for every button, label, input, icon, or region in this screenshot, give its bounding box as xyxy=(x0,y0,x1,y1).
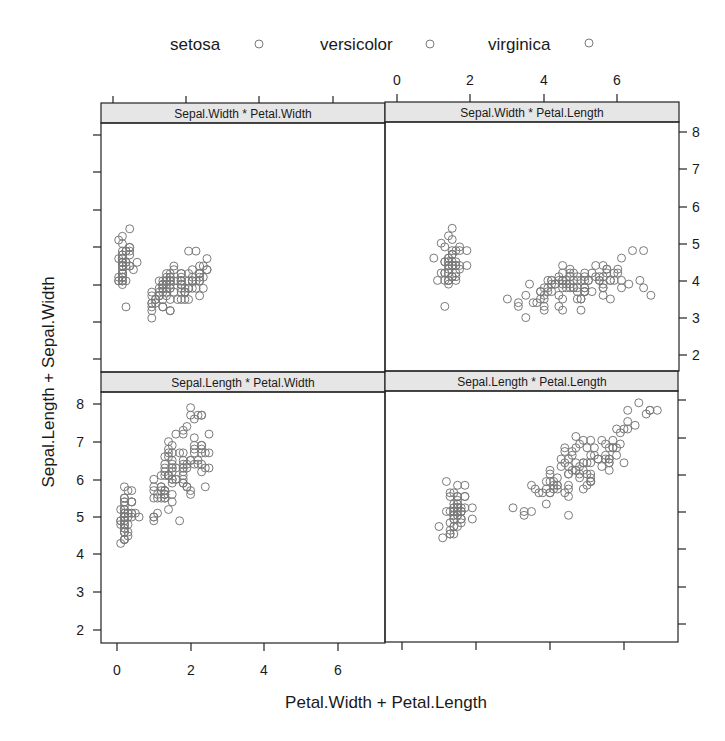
right-tick-label: 3 xyxy=(692,310,700,326)
data-point xyxy=(618,254,626,262)
data-point xyxy=(522,314,530,322)
data-point xyxy=(168,498,176,506)
data-point xyxy=(461,481,469,489)
data-point xyxy=(613,451,621,459)
data-point xyxy=(609,436,617,444)
data-point xyxy=(635,399,643,407)
data-point xyxy=(205,430,213,438)
data-point xyxy=(618,276,626,284)
panel-top-left xyxy=(101,123,385,372)
top-tick-label: 0 xyxy=(393,72,401,88)
data-point xyxy=(203,255,211,263)
data-point xyxy=(587,436,595,444)
data-point xyxy=(526,280,534,288)
data-point xyxy=(509,504,517,512)
left-tick-label: 5 xyxy=(76,509,84,525)
data-point xyxy=(468,515,476,523)
data-point xyxy=(441,302,449,310)
data-point xyxy=(624,418,632,426)
right-tick-label: 7 xyxy=(692,161,700,177)
chart-canvas: setosa versicolor virginica 0 2 4 6 xyxy=(0,0,725,741)
panel-bottom-left xyxy=(101,392,385,643)
data-point xyxy=(122,303,130,311)
data-point xyxy=(625,280,633,288)
left-tick-label: 7 xyxy=(76,434,84,450)
data-point xyxy=(192,247,200,255)
left-axis: 8 7 6 5 4 3 2 xyxy=(76,135,101,638)
right-tick-label: 4 xyxy=(692,273,700,289)
legend-label-versicolor: versicolor xyxy=(320,35,393,54)
data-point xyxy=(159,303,167,311)
data-point xyxy=(165,506,173,514)
data-point xyxy=(126,225,134,233)
legend-marker-virginica-icon xyxy=(585,39,593,47)
left-tick-label: 6 xyxy=(76,472,84,488)
top-tick-label: 6 xyxy=(613,72,621,88)
data-point xyxy=(605,466,613,474)
data-point xyxy=(201,483,209,491)
data-point xyxy=(542,500,550,508)
data-point xyxy=(522,291,530,299)
right-tick-label: 8 xyxy=(692,124,700,140)
data-point xyxy=(448,224,456,232)
data-point xyxy=(435,523,443,531)
legend-marker-setosa-icon xyxy=(255,40,263,48)
data-point xyxy=(187,404,195,412)
data-point xyxy=(647,291,655,299)
top-axis: 0 2 4 6 xyxy=(113,72,621,103)
data-point xyxy=(598,463,606,471)
bottom-axis: 0 2 4 6 xyxy=(113,642,624,678)
left-tick-label: 3 xyxy=(76,584,84,600)
data-point xyxy=(442,478,450,486)
data-point xyxy=(559,262,567,270)
data-point xyxy=(148,314,156,322)
data-point xyxy=(565,511,573,519)
data-point xyxy=(653,406,661,414)
legend-label-setosa: setosa xyxy=(170,35,221,54)
bottom-tick-label: 4 xyxy=(260,662,268,678)
top-tick-label: 2 xyxy=(466,72,474,88)
data-point xyxy=(166,307,174,315)
data-point xyxy=(190,434,198,442)
legend-marker-versicolor-icon xyxy=(426,40,434,48)
right-tick-label: 2 xyxy=(692,347,700,363)
data-point xyxy=(185,247,193,255)
data-point xyxy=(454,481,462,489)
bottom-tick-label: 0 xyxy=(113,662,121,678)
bottom-tick-label: 6 xyxy=(334,662,342,678)
left-tick-label: 4 xyxy=(76,546,84,562)
data-point xyxy=(620,459,628,467)
data-point xyxy=(577,306,585,314)
data-point xyxy=(592,262,600,270)
legend: setosa versicolor virginica xyxy=(170,35,593,54)
data-point xyxy=(624,406,632,414)
data-point xyxy=(636,276,644,284)
y-axis-title: Sepal.Length + Sepal.Width xyxy=(39,276,58,487)
left-tick-label: 2 xyxy=(76,622,84,638)
data-point xyxy=(133,258,141,266)
data-point xyxy=(461,493,469,501)
data-point xyxy=(468,504,476,512)
data-point xyxy=(618,284,626,292)
data-point xyxy=(590,444,598,452)
data-point xyxy=(528,508,536,516)
data-point xyxy=(430,254,438,262)
x-axis-title: Petal.Width + Petal.Length xyxy=(285,693,487,712)
lattice-scatterplot-matrix: setosa versicolor virginica 0 2 4 6 xyxy=(0,0,725,741)
right-tick-label: 6 xyxy=(692,199,700,215)
strip-label: Sepal.Width * Petal.Width xyxy=(174,107,311,121)
strip-label: Sepal.Length * Petal.Width xyxy=(171,376,314,390)
data-point xyxy=(640,247,648,255)
panel-top-right xyxy=(385,122,679,371)
data-point xyxy=(640,284,648,292)
data-point xyxy=(606,295,614,303)
data-point xyxy=(583,444,591,452)
data-point xyxy=(572,433,580,441)
right-axis: 8 7 6 5 4 3 2 xyxy=(678,124,700,624)
data-point xyxy=(150,475,158,483)
data-point xyxy=(629,247,637,255)
data-point xyxy=(631,421,639,429)
data-point xyxy=(196,292,204,300)
data-point xyxy=(168,490,176,498)
bottom-tick-label: 2 xyxy=(187,662,195,678)
